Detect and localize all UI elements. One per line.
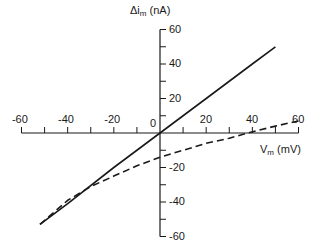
x-axis-title-unit: (mV) xyxy=(274,143,301,155)
x-axis-title: Vm (mV) xyxy=(260,143,301,159)
x-axis-title-sub: m xyxy=(267,148,274,157)
x-tick-label: -40 xyxy=(58,114,74,125)
x-tick-label: 40 xyxy=(246,114,258,125)
x-tick-label: 20 xyxy=(200,114,212,125)
y-tick-label: -40 xyxy=(169,196,185,207)
y-axis-title-main: Δi xyxy=(130,4,140,16)
x-tick-label: 60 xyxy=(292,114,304,125)
origin-label: 0 xyxy=(150,118,156,129)
y-tick-label: 40 xyxy=(169,58,181,69)
y-axis-title: Δim (nA) xyxy=(130,4,170,20)
y-tick-label: 60 xyxy=(169,24,181,35)
y-tick-label: 20 xyxy=(169,93,181,104)
y-axis-title-unit: (nA) xyxy=(146,4,170,16)
iv-chart xyxy=(0,0,319,250)
y-tick-label: -60 xyxy=(169,231,185,242)
x-tick-label: -20 xyxy=(104,114,120,125)
x-tick-label: -60 xyxy=(12,114,28,125)
series-line-dashed xyxy=(40,121,299,224)
y-tick-label: -20 xyxy=(169,162,185,173)
